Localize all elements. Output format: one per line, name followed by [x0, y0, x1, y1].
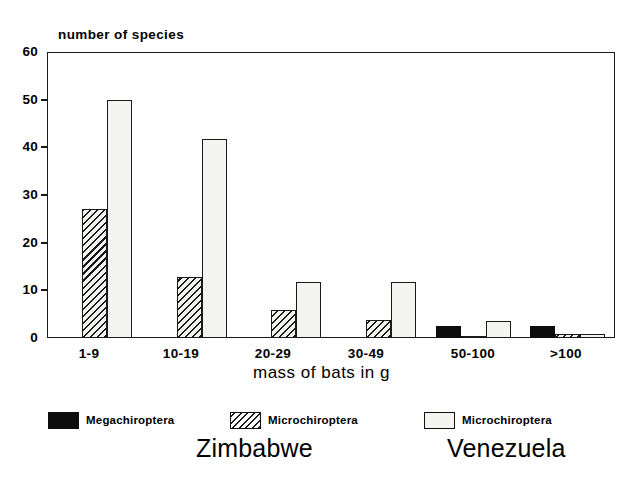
y-tick-label-10: 10 [0, 282, 47, 298]
x-tick-label-over-100: >100 [506, 346, 626, 361]
bar-50-100-mega [436, 326, 461, 338]
bar-20-29-micro-zim [271, 310, 296, 338]
bars-layer [47, 52, 615, 338]
bar-1-9-micro-zim [82, 209, 107, 338]
bar--100-micro-ven [580, 334, 605, 338]
y-tick-label-30: 30 [0, 187, 47, 203]
bar-30-49-micro-zim [366, 320, 391, 338]
x-tick-label-30-49: 30-49 [306, 346, 426, 361]
legend-label-microchiroptera-zimbabwe: Microchiroptera [268, 414, 358, 426]
legend-label-microchiroptera-venezuela: Microchiroptera [462, 414, 552, 426]
legend-item-microchiroptera-zimbabwe: Microchiroptera [230, 408, 358, 432]
bar--100-mega [530, 326, 555, 338]
bar-10-19-micro-ven [202, 139, 227, 338]
legend-country-zimbabwe: Zimbabwe [196, 434, 313, 463]
legend-country-venezuela: Venezuela [447, 434, 566, 463]
legend-swatch-white-outline-icon [424, 412, 455, 429]
bar-10-19-micro-zim [177, 277, 202, 338]
legend-swatch-diagonal-hatch-icon [230, 412, 261, 429]
bar--100-micro-zim [555, 334, 580, 338]
y-tick-label-20: 20 [0, 235, 47, 251]
bar-30-49-micro-ven [391, 282, 416, 338]
legend-swatch-solid-black-icon [48, 412, 79, 429]
x-axis-title: mass of bats in g [0, 363, 643, 383]
bar-50-100-micro-ven [486, 321, 511, 338]
y-tick-label-60: 60 [0, 44, 47, 60]
y-tick-label-50: 50 [0, 92, 47, 108]
legend-item-megachiroptera: Megachiroptera [48, 408, 174, 432]
bar-50-100-micro-zim [461, 336, 486, 338]
y-tick-label-0: 0 [0, 330, 47, 346]
y-tick-label-40: 40 [0, 139, 47, 155]
chart-figure: number of species 60 50 40 30 20 10 0 1-… [0, 0, 643, 493]
bar-20-29-micro-ven [296, 282, 321, 338]
legend-item-microchiroptera-venezuela: Microchiroptera [424, 408, 552, 432]
y-axis-title: number of species [58, 27, 184, 42]
bar-1-9-micro-ven [107, 100, 132, 338]
legend-label-megachiroptera: Megachiroptera [86, 414, 174, 426]
